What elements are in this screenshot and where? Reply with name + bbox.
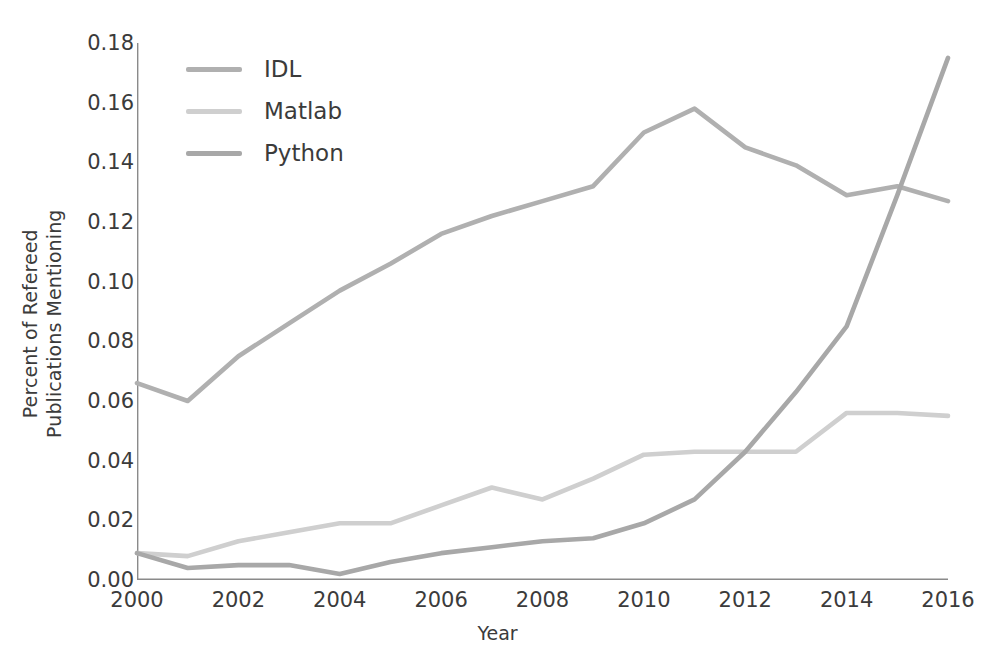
legend-label: Matlab: [264, 98, 342, 124]
x-tick-label: 2004: [295, 588, 385, 612]
x-tick-label: 2016: [903, 588, 993, 612]
y-tick-label: 0.14: [58, 150, 134, 174]
legend-label: Python: [264, 140, 344, 166]
x-tick-label: 2008: [498, 588, 588, 612]
x-tick-label: 2002: [193, 588, 283, 612]
legend-swatch-icon: [186, 67, 242, 72]
legend-swatch-icon: [186, 151, 242, 156]
x-tick-label: 2012: [700, 588, 790, 612]
y-axis-tick-labels: 0.000.020.040.060.080.100.120.140.160.18: [50, 0, 134, 670]
chart-legend: IDLMatlabPython: [186, 48, 406, 174]
y-tick-label: 0.10: [58, 270, 134, 294]
legend-item-python[interactable]: Python: [186, 132, 406, 174]
x-tick-label: 2014: [802, 588, 892, 612]
legend-item-idl[interactable]: IDL: [186, 48, 406, 90]
legend-label: IDL: [264, 56, 301, 82]
x-tick-label: 2006: [396, 588, 486, 612]
legend-swatch-icon: [186, 109, 242, 114]
x-tick-label: 2000: [92, 588, 182, 612]
y-tick-label: 0.16: [58, 91, 134, 115]
series-line-matlab: [137, 413, 948, 556]
y-tick-label: 0.12: [58, 210, 134, 234]
y-tick-label: 0.04: [58, 449, 134, 473]
y-tick-label: 0.18: [58, 31, 134, 55]
y-tick-label: 0.06: [58, 389, 134, 413]
y-tick-label: 0.08: [58, 329, 134, 353]
x-tick-label: 2010: [599, 588, 689, 612]
legend-item-matlab[interactable]: Matlab: [186, 90, 406, 132]
y-tick-label: 0.02: [58, 508, 134, 532]
chart-figure: Percent of Refereed Publications Mention…: [0, 0, 995, 670]
x-axis-label: Year: [0, 622, 995, 644]
